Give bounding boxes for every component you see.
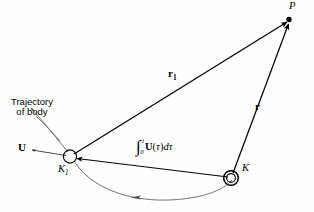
vector-displacement-line bbox=[77, 159, 228, 178]
label-integral-expression: ∫ t 0 U(τ)dτ bbox=[136, 139, 172, 154]
label-point-p: P bbox=[289, 0, 295, 11]
vector-r1-line bbox=[74, 22, 287, 154]
label-point-k-text: K bbox=[242, 162, 249, 173]
label-trajectory-line2: of body bbox=[16, 106, 47, 117]
label-vector-r1: r1 bbox=[168, 68, 177, 81]
label-vector-r-text: r bbox=[255, 100, 260, 112]
label-point-k1-text: K bbox=[58, 163, 65, 174]
vector-r-line bbox=[233, 24, 289, 173]
trajectory-arc-arrowhead bbox=[131, 195, 142, 199]
label-trajectory-of-body: Trajectory of body bbox=[11, 97, 53, 118]
label-vector-u: U bbox=[18, 142, 26, 154]
integral-limits: t 0 bbox=[141, 139, 144, 154]
label-vector-r: r bbox=[255, 101, 260, 113]
label-vector-r1-subscript: 1 bbox=[173, 73, 177, 82]
integral-upper-limit: t bbox=[142, 138, 144, 145]
label-point-k1: K1 bbox=[58, 163, 69, 177]
label-point-p-text: P bbox=[289, 0, 295, 11]
trajectory-label-leader bbox=[36, 116, 60, 141]
point-marker-k-outer bbox=[224, 171, 239, 186]
label-point-k: K bbox=[242, 162, 249, 173]
vector-geometry-figure: P K1 K r1 r U Trajectory of body ∫ t 0 U… bbox=[0, 0, 314, 212]
point-marker-p bbox=[286, 17, 291, 22]
trajectory-curve-lower bbox=[74, 161, 232, 200]
integral-integrand-vector: U bbox=[145, 141, 153, 152]
integral-differential: dτ bbox=[163, 141, 172, 152]
label-point-k1-subscript: 1 bbox=[65, 169, 69, 177]
integral-sign: ∫ bbox=[136, 139, 141, 153]
point-marker-k1 bbox=[63, 150, 76, 163]
vector-u-line bbox=[32, 150, 66, 156]
label-vector-u-text: U bbox=[18, 141, 26, 153]
